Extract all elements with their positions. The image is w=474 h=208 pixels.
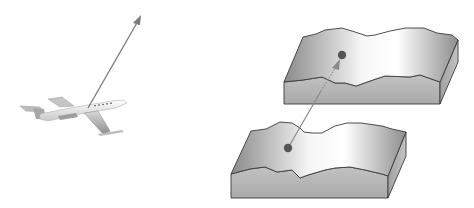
velocity-arrow [88, 21, 138, 108]
upper-terrain-block [284, 28, 458, 104]
terrain-panel [231, 28, 458, 198]
diagram-canvas [0, 0, 474, 208]
start-point-marker [284, 144, 292, 152]
airplane-icon [20, 97, 127, 136]
lower-terrain-block [231, 122, 406, 198]
aircraft-panel [20, 15, 141, 136]
velocity-arrowhead [133, 15, 141, 25]
end-point-marker [338, 51, 346, 59]
